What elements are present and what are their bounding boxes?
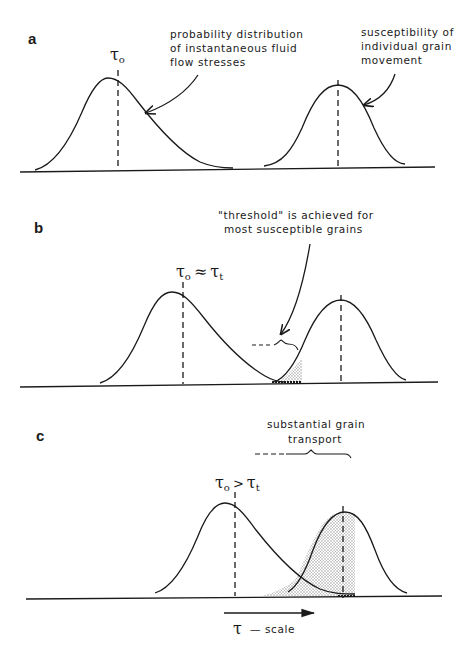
tau-o-greater-tau-t-label: τo>τt [215, 473, 260, 493]
annotation-susceptibility-line3: movement [361, 54, 423, 66]
annotation-threshold-line1: "threshold" is achieved for [218, 209, 374, 221]
fluid-stress-distribution-curve-b [100, 292, 285, 383]
tau-o-label: τo [110, 45, 125, 65]
tau-o-approx-tau-t-label: τo≈τt [176, 262, 223, 282]
panel-b: b τo≈τt "threshold" is achieved for most… [20, 209, 438, 387]
tau-scale-symbol: τ [233, 619, 242, 638]
panel-label-b: b [34, 219, 43, 236]
panel-label-a: a [28, 30, 37, 47]
threshold-brace [274, 340, 298, 350]
annotation-arrow-susceptibility [364, 74, 395, 105]
sediment-threshold-diagram: a τo probability distribution of instant… [0, 0, 471, 651]
fluid-stress-distribution-curve [35, 78, 233, 170]
panel-a: a τo probability distribution of instant… [20, 26, 454, 172]
annotation-susceptibility-line1: susceptibility of [361, 26, 454, 38]
grain-susceptibility-curve [264, 85, 405, 166]
annotation-transport-line1: substantial grain [267, 418, 365, 430]
annotation-threshold-line2: most susceptible grains [224, 223, 363, 235]
annotation-susceptibility-line2: individual grain [361, 40, 452, 52]
baseline-c [26, 596, 442, 599]
baseline-b [20, 382, 438, 387]
annotation-arrow-fluid [146, 75, 198, 113]
panel-c: c substantial grain transport τo>τt [26, 418, 442, 599]
annotation-transport-line2: transport [288, 433, 342, 445]
panel-label-c: c [36, 427, 44, 444]
annotation-fluid-stress-line2: of instantaneous fluid [170, 42, 297, 54]
annotation-fluid-stress-line3: flow stresses [170, 56, 246, 68]
transport-brace [286, 450, 351, 458]
annotation-fluid-stress-line1: probability distribution [170, 28, 304, 40]
tau-scale-label: — scale [250, 623, 295, 635]
tau-scale-axis: τ — scale [224, 613, 314, 638]
annotation-arrow-threshold [281, 244, 310, 334]
